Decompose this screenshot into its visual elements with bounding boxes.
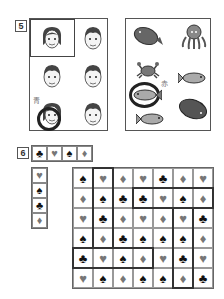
face-man-icon[interactable]: [81, 25, 105, 51]
suit-grid: ♠ ♥ ♦ ♥ ♣ ♦ ♥ ♦ ♠ ♣ ♣ ♥ ♠ ♦ ♥ ♣ ♦ ♥ ♦ ♥ …: [72, 167, 214, 289]
sea-creatures-panel: 赤: [125, 18, 211, 131]
grid-cell[interactable]: ♣: [173, 248, 193, 268]
section-5-number: 5: [15, 20, 27, 32]
grid-cell[interactable]: ♥: [193, 248, 213, 268]
grid-cell[interactable]: ♥: [93, 248, 113, 268]
grid-cell[interactable]: ♦: [93, 228, 113, 248]
grid-cell[interactable]: ♠: [153, 228, 173, 248]
grid-cell[interactable]: ♦: [173, 268, 193, 288]
grid-cell[interactable]: ♦: [113, 168, 133, 188]
diamond-icon: ♦: [77, 146, 92, 161]
grid-cell[interactable]: ♦: [173, 168, 193, 188]
diamond-icon: ♦: [32, 213, 47, 228]
grid-cell[interactable]: ♣: [153, 168, 173, 188]
face-man-icon[interactable]: [81, 63, 105, 89]
octopus-icon[interactable]: [180, 23, 208, 51]
heart-icon: ♥: [32, 168, 47, 183]
faces-panel: 青: [29, 18, 108, 131]
grid-cell[interactable]: ♠: [173, 228, 193, 248]
grid-cell[interactable]: ♠: [93, 268, 113, 288]
section-6-number: 6: [17, 147, 29, 159]
grid-cell[interactable]: ♣: [193, 268, 213, 288]
fish-icon[interactable]: [136, 112, 166, 126]
grid-cell[interactable]: ♠: [133, 268, 153, 288]
grid-cell[interactable]: ♥: [133, 208, 153, 228]
grid-cell[interactable]: ♠: [133, 228, 153, 248]
grid-cell[interactable]: ♥: [173, 208, 193, 228]
grid-cell[interactable]: ♣: [193, 208, 213, 228]
answer-circle: [37, 107, 61, 131]
fish-icon[interactable]: [178, 71, 208, 85]
red-label: 赤: [161, 78, 168, 88]
grid-cell[interactable]: ♥: [133, 168, 153, 188]
face-man-icon[interactable]: [40, 63, 64, 89]
grid-cell[interactable]: ♣: [113, 188, 133, 208]
grid-cell[interactable]: ♦: [193, 228, 213, 248]
grid-cell[interactable]: ♦: [153, 208, 173, 228]
grid-cell[interactable]: ♥: [153, 248, 173, 268]
grid-cell[interactable]: ♦: [113, 208, 133, 228]
spade-icon: ♠: [32, 183, 47, 198]
grid-cell[interactable]: ♥: [93, 168, 113, 188]
grid-cell[interactable]: ♦: [193, 188, 213, 208]
grid-cell[interactable]: ♣: [93, 208, 113, 228]
club-icon: ♣: [32, 146, 47, 161]
grid-cell[interactable]: ♠: [73, 228, 93, 248]
grid-cell[interactable]: ♠: [73, 168, 93, 188]
grid-cell[interactable]: ♣: [113, 228, 133, 248]
grid-cell[interactable]: ♣: [133, 188, 153, 208]
crab-icon[interactable]: [136, 61, 160, 79]
flatfish-dark-icon[interactable]: [176, 97, 210, 121]
face-woman-icon[interactable]: [40, 25, 64, 51]
suit-sequence-top: ♣ ♥ ♠ ♦: [31, 145, 93, 162]
grid-cell[interactable]: ♥: [73, 268, 93, 288]
flatfish-icon[interactable]: [132, 25, 164, 47]
spade-icon: ♠: [62, 146, 77, 161]
club-icon: ♣: [32, 198, 47, 213]
fish-icon[interactable]: [132, 88, 162, 102]
grid-cell[interactable]: ♠: [153, 268, 173, 288]
blue-label: 青: [33, 95, 40, 105]
grid-cell[interactable]: ♥: [73, 208, 93, 228]
grid-cell[interactable]: ♥: [153, 188, 173, 208]
grid-cell[interactable]: ♥: [193, 168, 213, 188]
face-man-icon[interactable]: [81, 101, 105, 127]
heart-icon: ♥: [47, 146, 62, 161]
grid-cell[interactable]: ♦: [73, 188, 93, 208]
grid-cell[interactable]: ♠: [173, 188, 193, 208]
grid-cell[interactable]: ♦: [133, 248, 153, 268]
grid-cell[interactable]: ♦: [113, 268, 133, 288]
grid-cell[interactable]: ♣: [73, 248, 93, 268]
grid-cell[interactable]: ♠: [113, 248, 133, 268]
suit-sequence-left: ♥ ♠ ♣ ♦: [31, 167, 48, 229]
grid-cell[interactable]: ♠: [93, 188, 113, 208]
